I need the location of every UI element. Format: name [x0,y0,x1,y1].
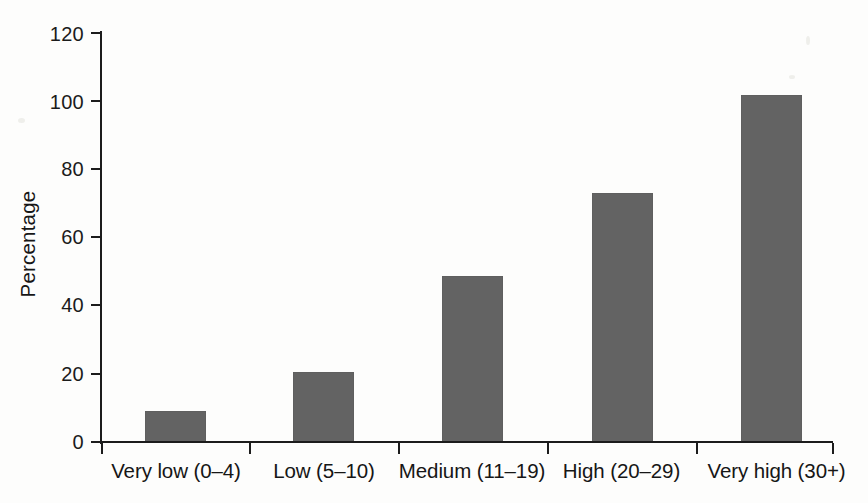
bar-high [592,193,653,442]
x-tick-mark-4 [696,443,698,454]
y-tick-label-20-wrap: 20 [24,363,84,383]
x-label-low: Low (5–10) [250,459,398,483]
x-tick-mark-1 [249,443,251,454]
x-tick-mark-0 [101,443,103,454]
y-tick-label-0: 0 [28,431,84,454]
y-tick-label-80-wrap: 80 [24,158,84,178]
x-label-medium: Medium (11–19) [396,459,548,483]
bar-very-high [741,95,802,442]
y-tick-label-80: 80 [28,158,84,181]
y-tick-label-120-wrap: 120 [24,23,84,43]
bar-medium [442,276,503,442]
y-tick-label-40-wrap: 40 [24,294,84,314]
x-label-very-high: Very high (30+) [694,459,859,483]
y-tick-label-100: 100 [28,91,84,114]
x-tick-mark-5 [832,443,834,454]
y-axis-line [100,31,102,444]
y-tick-label-60-wrap: 60 [24,226,84,246]
scan-speckle [18,118,25,123]
scan-speckle [789,75,795,79]
bar-low [293,372,354,442]
scan-speckle [806,36,810,45]
x-axis-line [100,441,833,443]
y-tick-label-40: 40 [28,294,84,317]
x-tick-mark-2 [398,443,400,454]
x-tick-mark-3 [547,443,549,454]
y-tick-label-20: 20 [28,363,84,386]
x-label-very-low: Very low (0–4) [100,459,252,483]
y-tick-label-120: 120 [28,23,84,46]
bar-very-low [145,411,206,442]
y-tick-label-60: 60 [28,226,84,249]
y-tick-label-100-wrap: 100 [24,91,84,111]
x-label-high: High (20–29) [547,459,696,483]
y-tick-label-0-wrap: 0 [24,431,84,451]
bar-chart-figure: Percentage 120 100 80 60 40 20 0 Very lo… [0,0,868,503]
